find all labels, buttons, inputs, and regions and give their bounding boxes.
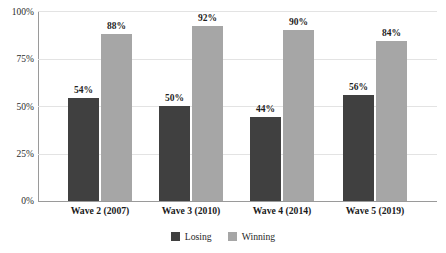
x-tick-label: Wave 5 (2019) — [323, 204, 427, 218]
legend-swatch-icon — [171, 232, 180, 241]
bar-value-label: 56% — [339, 82, 379, 93]
y-tick-label: 50% — [0, 102, 34, 112]
y-tick-label: 100% — [0, 7, 34, 17]
x-axis-labels: Wave 2 (2007) Wave 3 (2010) Wave 4 (2014… — [38, 204, 437, 220]
y-tick-label: 25% — [0, 149, 34, 159]
x-tick-label: Wave 4 (2014) — [230, 204, 334, 218]
bar-group: 56% 84% — [343, 11, 407, 201]
legend-label: Winning — [242, 231, 276, 242]
bar-value-label: 44% — [246, 104, 286, 115]
legend-label: Losing — [185, 231, 212, 242]
bar-losing[interactable]: 50% — [159, 106, 190, 201]
bar-value-label: 84% — [372, 28, 412, 39]
bar-value-label: 88% — [97, 21, 137, 32]
bar-groups: 54% 88% 50% 92% 44% — [38, 11, 437, 201]
bar-value-label: 92% — [188, 13, 228, 24]
legend-swatch-icon — [228, 232, 237, 241]
y-tick-label: 0% — [0, 196, 34, 206]
bar-group: 44% 90% — [250, 11, 314, 201]
bar-losing[interactable]: 44% — [250, 117, 281, 201]
bar-winning[interactable]: 92% — [192, 26, 223, 201]
bar-group: 50% 92% — [159, 11, 223, 201]
chart-legend: Losing Winning — [0, 231, 446, 242]
bar-chart: 100% 75% 50% 25% 0% 54% 88% — [0, 0, 446, 253]
bar-winning[interactable]: 88% — [101, 34, 132, 201]
legend-item-losing[interactable]: Losing — [171, 231, 212, 242]
x-axis-line — [38, 201, 437, 202]
x-tick-label: Wave 2 (2007) — [48, 204, 152, 218]
bar-value-label: 90% — [279, 17, 319, 28]
bar-losing[interactable]: 56% — [343, 95, 374, 201]
bar-group: 54% 88% — [68, 11, 132, 201]
bar-winning[interactable]: 84% — [376, 41, 407, 201]
x-tick-label: Wave 3 (2010) — [139, 204, 243, 218]
y-tick-label: 75% — [0, 54, 34, 64]
bar-value-label: 50% — [155, 93, 195, 104]
plot-area: 54% 88% 50% 92% 44% — [38, 11, 437, 201]
bar-losing[interactable]: 54% — [68, 98, 99, 201]
legend-item-winning[interactable]: Winning — [228, 231, 276, 242]
y-axis-labels: 100% 75% 50% 25% 0% — [0, 0, 34, 253]
bar-winning[interactable]: 90% — [283, 30, 314, 201]
bar-value-label: 54% — [64, 85, 104, 96]
